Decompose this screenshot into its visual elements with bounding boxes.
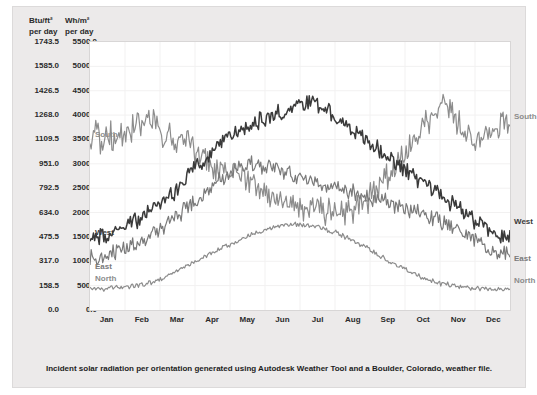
series-label-left-north: North [95, 274, 116, 283]
units-secondary-line1: Wh/m² [65, 15, 93, 26]
plot-area [89, 41, 511, 311]
units-label-primary: Btu/ft² per day [29, 15, 57, 37]
x-tick-jun: Jun [275, 315, 289, 324]
x-tick-may: May [239, 315, 255, 324]
chart-svg [90, 42, 510, 310]
y-tick-primary: 634.0 [21, 208, 59, 217]
y-tick-primary: 951.0 [21, 159, 59, 168]
figure-caption: Incident solar radiation per orientation… [13, 364, 525, 373]
y-tick-primary: 0.0 [21, 305, 59, 314]
y-tick-primary: 1268.0 [21, 110, 59, 119]
series-label-right-south: South [514, 112, 537, 121]
figure-panel: Btu/ft² per day Wh/m² per day 1743.51585… [12, 6, 526, 388]
y-tick-primary: 1743.5 [21, 37, 59, 46]
units-primary-line1: Btu/ft² [29, 15, 57, 26]
series-label-right-east: East [514, 254, 531, 263]
series-label-right-west: West [514, 217, 533, 226]
x-tick-sep: Sep [381, 315, 396, 324]
x-tick-feb: Feb [135, 315, 149, 324]
series-label-left-east: East [95, 262, 112, 271]
units-secondary-line2: per day [65, 26, 93, 37]
y-tick-primary: 1426.5 [21, 86, 59, 95]
y-tick-primary: 158.5 [21, 281, 59, 290]
x-tick-dec: Dec [486, 315, 501, 324]
x-tick-mar: Mar [170, 315, 184, 324]
y-tick-primary: 1585.0 [21, 61, 59, 70]
x-tick-nov: Nov [451, 315, 466, 324]
units-primary-line2: per day [29, 26, 57, 37]
series-label-left-west: West [95, 228, 114, 237]
units-label-secondary: Wh/m² per day [65, 15, 93, 37]
series-label-left-south: South [95, 130, 118, 139]
x-tick-jan: Jan [100, 315, 114, 324]
x-tick-apr: Apr [205, 315, 219, 324]
x-tick-jul: Jul [312, 315, 324, 324]
x-tick-oct: Oct [416, 315, 429, 324]
x-tick-aug: Aug [345, 315, 361, 324]
y-tick-primary: 475.5 [21, 232, 59, 241]
y-tick-primary: 792.5 [21, 183, 59, 192]
gridlines [90, 42, 510, 310]
y-tick-primary: 1109.5 [21, 134, 59, 143]
y-tick-primary: 317.0 [21, 256, 59, 265]
series-label-right-north: North [514, 276, 535, 285]
